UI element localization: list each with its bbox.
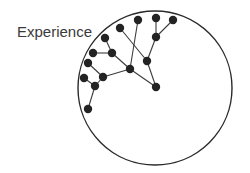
node-dot <box>169 16 177 24</box>
node-dot <box>152 33 160 41</box>
node-dot <box>152 83 160 91</box>
node-dot <box>108 49 116 57</box>
node-dot <box>126 65 134 73</box>
node-dot <box>84 105 92 113</box>
node-dot <box>143 57 151 65</box>
node-dot <box>84 59 92 67</box>
node-dot <box>116 24 124 32</box>
node-dot <box>91 82 99 90</box>
node-dot <box>99 73 107 81</box>
experience-label: Experience <box>17 23 92 40</box>
node-dot <box>80 74 88 82</box>
nodes-group <box>80 14 177 113</box>
node-dot <box>152 14 160 22</box>
node-dot <box>134 16 142 24</box>
edge <box>103 69 130 77</box>
node-dot <box>101 34 109 42</box>
edges-group <box>84 18 173 109</box>
node-dot <box>89 49 97 57</box>
edge <box>130 20 138 69</box>
edge <box>130 69 156 87</box>
